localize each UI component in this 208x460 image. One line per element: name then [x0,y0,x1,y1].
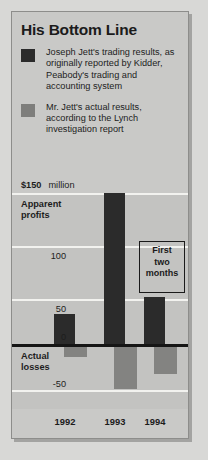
axis-label-actual-losses-2: losses [21,362,50,373]
legend-item-actual: Mr. Jett's actual results, according to … [21,102,183,136]
chart-units: $150million [21,180,75,190]
x-tick-1994: 1994 [135,416,175,427]
axis-tick-100: 100 [40,251,66,261]
page-title: His Bottom Line [21,21,137,39]
bar-1993-actual [114,347,137,389]
x-tick-1993: 1993 [95,416,135,427]
bar-1994-reported [144,297,165,344]
zero-axis-line [12,344,188,347]
bar-1994-actual [154,347,177,374]
axis-label-apparent-profits-1: Apparent [21,199,61,210]
axis-label-apparent-profits-2: profits [21,210,50,221]
legend-swatch-dark-icon [21,49,35,62]
x-axis-years: 1992 1993 1994 [12,416,188,432]
chart-panel: His Bottom Line Joseph Jett's trading re… [11,11,189,439]
gridline-150 [12,193,188,195]
units-word: million [48,180,74,190]
annotation-line-2: two [140,257,184,269]
annotation-line-3: months [140,268,184,280]
annotation-first-two-months: First two months [139,241,185,293]
bar-1992-actual [64,347,87,357]
axis-tick-minus-50: -50 [40,379,66,389]
legend-item-reported: Joseph Jett's trading results, as origin… [21,47,183,93]
axis-tick-50: 50 [40,304,66,314]
annotation-line-1: First [140,245,184,257]
axis-label-actual-losses-1: Actual [21,351,49,362]
units-amount: $150 [21,180,41,190]
legend-swatch-gray-icon [21,104,35,117]
chart-legend: Joseph Jett's trading results, as origin… [21,47,183,145]
gridline-minus-50 [12,390,188,392]
legend-label-actual: Mr. Jett's actual results, according to … [46,102,183,136]
axis-tick-0: 0 [40,332,66,342]
chart-area: $150million First two mont [12,180,188,439]
bar-1993-reported [104,193,125,344]
legend-label-reported: Joseph Jett's trading results, as origin… [46,47,183,93]
chart-plot: First two months Apparent profits 100 50… [12,193,188,409]
x-tick-1992: 1992 [45,416,85,427]
